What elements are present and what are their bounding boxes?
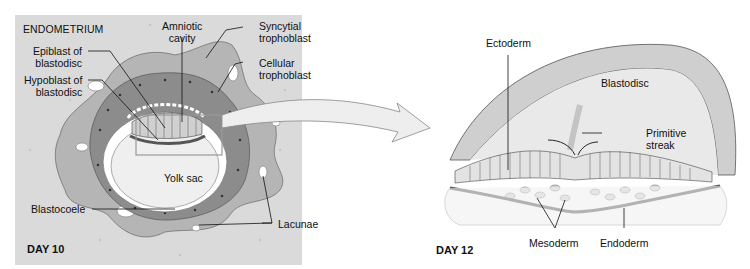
day-10-label: DAY 10 xyxy=(27,243,64,255)
epiblast-label: Epiblast of blastodisc xyxy=(33,45,82,69)
endometrium-label: ENDOMETRIUM xyxy=(23,23,103,35)
lacunae-label: Lacunae xyxy=(278,218,318,230)
amniotic-cavity-label: Amniotic cavity xyxy=(162,20,202,44)
cellular-trophoblast-label: Cellular trophoblast xyxy=(259,57,311,81)
cellular-line1: Cellular xyxy=(259,57,311,69)
blastocoele-label: Blastocoele xyxy=(31,203,85,215)
syncytial-line1: Syncytial xyxy=(259,20,311,32)
syncytial-line2: trophoblast xyxy=(259,32,311,44)
primitive-streak-label: Primitive streak xyxy=(646,127,686,151)
mesoderm-label: Mesoderm xyxy=(529,237,579,249)
ectoderm-label: Ectoderm xyxy=(486,37,531,49)
diagram-artwork xyxy=(0,0,750,269)
amniotic-cavity-line1: Amniotic xyxy=(162,20,202,32)
primitive-line1: Primitive xyxy=(646,127,686,139)
endoderm-label: Endoderm xyxy=(600,237,648,249)
hypoblast-line1: Hypoblast of xyxy=(24,74,82,86)
syncytial-trophoblast-label: Syncytial trophoblast xyxy=(259,20,311,44)
hypoblast-label: Hypoblast of blastodisc xyxy=(24,74,82,98)
amniotic-cavity-line2: cavity xyxy=(162,32,202,44)
epiblast-line2: blastodisc xyxy=(33,57,82,69)
primitive-line2: streak xyxy=(646,139,686,151)
epiblast-line1: Epiblast of xyxy=(33,45,82,57)
blastodisc-label: Blastodisc xyxy=(601,77,649,89)
cellular-line2: trophoblast xyxy=(259,69,311,81)
hypoblast-line2: blastodisc xyxy=(24,86,82,98)
day-12-label: DAY 12 xyxy=(436,244,473,256)
yolk-sac-label: Yolk sac xyxy=(164,172,203,184)
